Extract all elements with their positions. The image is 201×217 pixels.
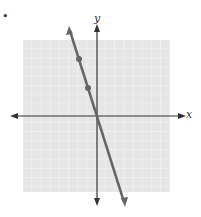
line-bottom-arrow-icon: [121, 197, 128, 207]
x-axis-right-arrow-icon: [178, 113, 186, 119]
point-neg1-3: [85, 85, 91, 91]
coordinate-plane: [0, 0, 201, 217]
x-axis-label: x: [186, 108, 192, 121]
y-axis-down-arrow-icon: [94, 198, 100, 206]
y-axis-label: y: [94, 12, 100, 25]
line-top-arrow-icon: [66, 26, 73, 35]
x-axis-left-arrow-icon: [10, 113, 18, 119]
y-axis-up-arrow-icon: [94, 24, 100, 32]
point-neg2-6: [76, 56, 82, 62]
